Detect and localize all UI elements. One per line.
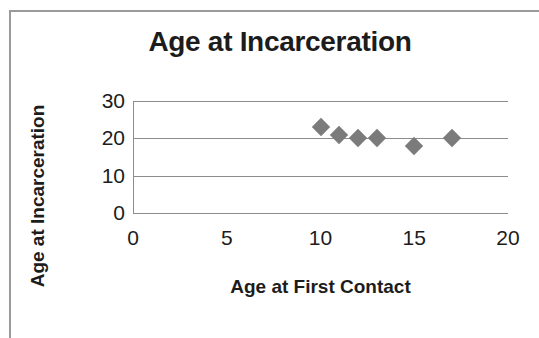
- plot-area: [133, 101, 508, 213]
- x-tick-label: 20: [483, 226, 533, 250]
- x-axis-tick-labels: 05101520: [133, 226, 508, 256]
- gridline-y-0: [133, 213, 508, 214]
- gridline-y-10: [133, 176, 508, 177]
- y-axis-tick-labels: 0102030: [85, 101, 125, 213]
- x-tick-label: 0: [108, 226, 158, 250]
- y-tick-label: 20: [85, 126, 125, 150]
- y-tick-label: 30: [85, 89, 125, 113]
- chart-page: Age at Incarceration 0102030 05101520 Ag…: [0, 0, 539, 338]
- y-axis-title: Age at Incarceration: [27, 96, 49, 296]
- y-tick-label: 0: [85, 201, 125, 225]
- chart-title: Age at Incarceration: [60, 26, 500, 58]
- x-tick-label: 10: [296, 226, 346, 250]
- x-tick-label: 5: [202, 226, 252, 250]
- x-tick-label: 15: [389, 226, 439, 250]
- x-axis-title: Age at First Contact: [133, 276, 508, 298]
- y-tick-label: 10: [85, 164, 125, 188]
- gridline-y-30: [133, 101, 508, 102]
